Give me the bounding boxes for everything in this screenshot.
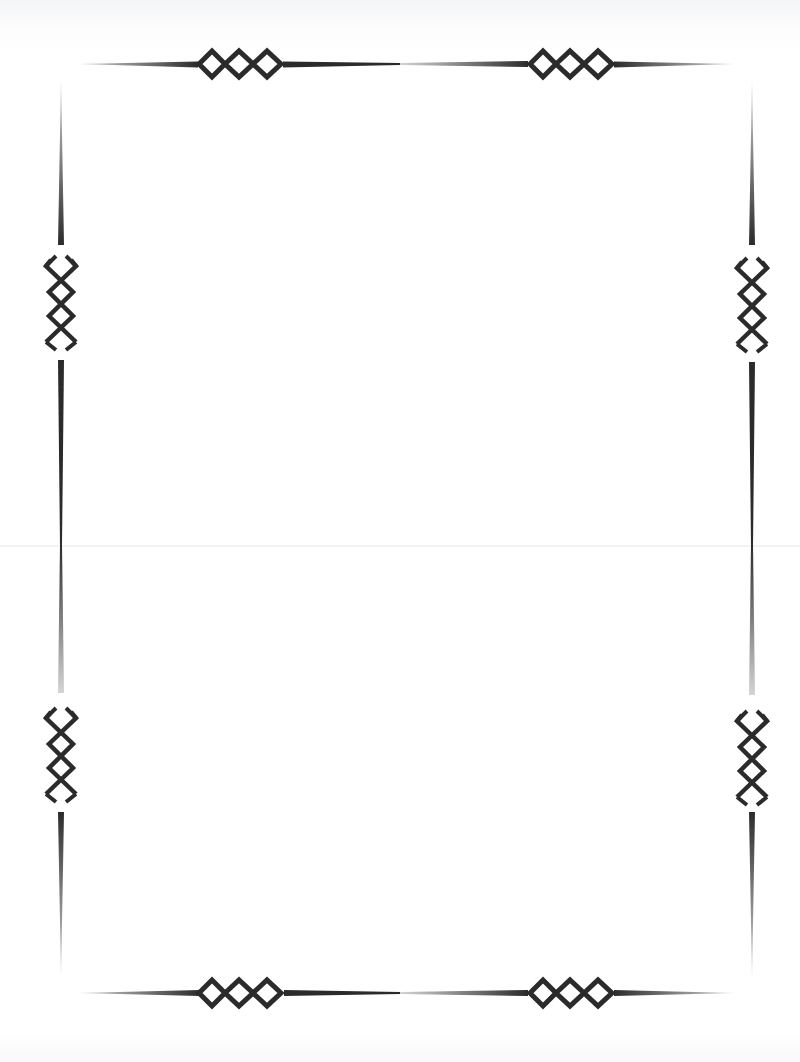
left-upper-chain-ornament — [46, 256, 76, 350]
bottom-border — [78, 980, 735, 1006]
left-border — [46, 78, 76, 978]
top-left-diamond-ornament — [199, 51, 281, 77]
right-border — [737, 80, 767, 978]
top-right-diamond-ornament — [530, 51, 612, 77]
bottom-left-diamond-ornament — [199, 980, 281, 1006]
document-page — [0, 0, 800, 1062]
right-upper-chain-ornament — [737, 258, 767, 352]
left-lower-chain-ornament — [46, 708, 76, 802]
top-border — [78, 51, 735, 77]
right-lower-chain-ornament — [737, 711, 767, 805]
bottom-right-diamond-ornament — [530, 980, 612, 1006]
blank-content-area — [90, 100, 710, 960]
